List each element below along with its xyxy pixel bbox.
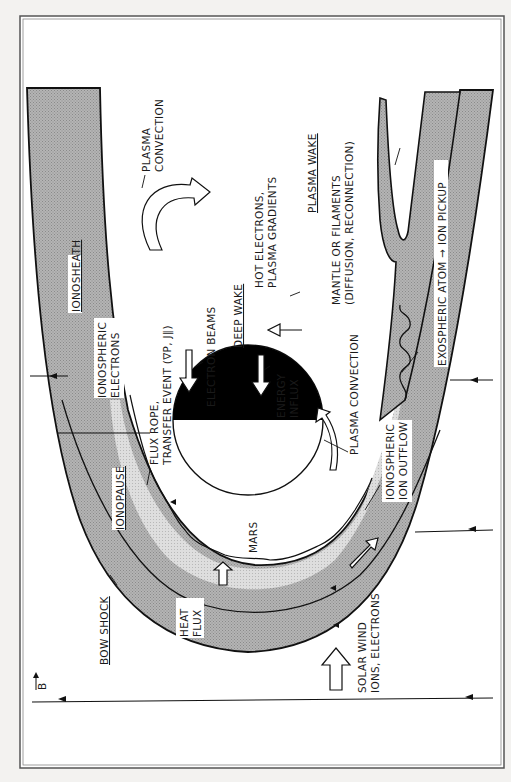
label-bow-shock: BOW SHOCK — [98, 595, 110, 665]
label-plasma-convection-bottom: PLASMA CONVECTION — [348, 334, 360, 455]
label-exospheric-pickup: EXOSPHERIC ATOM → ION PICKUP — [436, 182, 448, 366]
label-ionospheric-electrons: IONOSPHERICELECTRONS — [96, 322, 121, 398]
label-ionosheath: IONOSHEATH — [70, 240, 82, 312]
label-mars: MARS — [247, 522, 259, 553]
mars-planet — [173, 345, 323, 495]
label-electron-beams: ELECTRON BEAMS — [205, 306, 217, 407]
label-plasma-wake: PLASMA WAKE — [306, 133, 318, 213]
label-deep-wake: DEEP WAKE — [232, 284, 244, 348]
label-energy-influx: ENERGYINFLUX — [275, 373, 300, 418]
mars-interaction-diagram: PLASMACONVECTION IONOSHEATH IONOSPHERICE… — [0, 0, 511, 782]
label-b-field: B — [36, 682, 48, 690]
label-ionospheric-outflow: IONOSPHERICION OUTFLOW — [384, 421, 409, 500]
label-hot-electrons: HOT ELECTRONS,PLASMA GRADIENTS — [253, 176, 278, 288]
label-ionopause: IONOPAUSE — [114, 466, 126, 530]
label-heat-flux: HEATFLUX — [178, 608, 203, 637]
